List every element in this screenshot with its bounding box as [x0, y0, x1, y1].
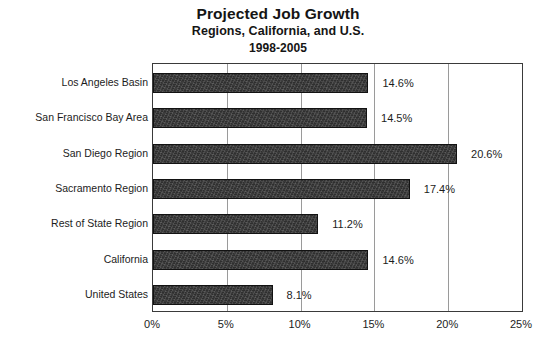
bar [153, 73, 368, 93]
category-label: Sacramento Region [2, 182, 148, 194]
bar-value-label: 14.5% [381, 112, 412, 124]
chart-subtitle-period: 1998-2005 [0, 40, 556, 56]
plot-area: 14.6%14.5%20.6%17.4%11.2%14.6%8.1% [152, 63, 523, 312]
bar-row: 11.2% [153, 214, 522, 234]
bar-row: 8.1% [153, 285, 522, 305]
category-label: California [2, 253, 148, 265]
x-axis-tick-label: 10% [289, 318, 311, 330]
bar-value-label: 17.4% [424, 183, 455, 195]
x-axis-tick-label: 5% [218, 318, 234, 330]
bar [153, 214, 318, 234]
chart-title-block: Projected Job Growth Regions, California… [0, 4, 556, 56]
x-axis-tick-label: 0% [144, 318, 160, 330]
bar-value-label: 14.6% [382, 77, 413, 89]
category-label: Rest of State Region [2, 217, 148, 229]
x-axis-tick-label: 25% [510, 318, 532, 330]
category-axis: Los Angeles BasinSan Francisco Bay AreaS… [0, 63, 148, 310]
bar-row: 14.6% [153, 250, 522, 270]
bar-row: 14.5% [153, 108, 522, 128]
bar-row: 20.6% [153, 144, 522, 164]
category-label: Los Angeles Basin [2, 76, 148, 88]
category-label: San Francisco Bay Area [2, 111, 148, 123]
bar-value-label: 11.2% [332, 218, 362, 230]
bar [153, 179, 410, 199]
category-label: San Diego Region [2, 147, 148, 159]
bar [153, 285, 273, 305]
category-label: United States [2, 288, 148, 300]
page-title: Projected Job Growth [0, 4, 556, 23]
x-axis-tick-label: 15% [362, 318, 384, 330]
bar-value-label: 20.6% [471, 148, 502, 160]
chart-subtitle: Regions, California, and U.S. [0, 23, 556, 40]
bar [153, 250, 368, 270]
bar [153, 144, 457, 164]
bar-row: 17.4% [153, 179, 522, 199]
bar-value-label: 8.1% [287, 289, 312, 301]
bar-chart: Projected Job Growth Regions, California… [0, 0, 556, 348]
bar [153, 108, 367, 128]
x-axis-tick-label: 20% [436, 318, 458, 330]
bar-value-label: 14.6% [382, 254, 413, 266]
bar-row: 14.6% [153, 73, 522, 93]
